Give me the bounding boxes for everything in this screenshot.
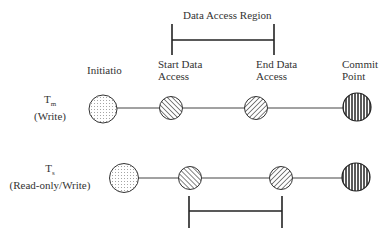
initiation-node-ts <box>110 164 139 193</box>
end-access-label: End Data Access <box>256 58 297 82</box>
start-access-node-ts <box>179 167 202 190</box>
timeline-ts <box>110 163 371 193</box>
commit-point-label: Commit Point <box>342 58 378 82</box>
end-access-node-ts <box>270 167 293 190</box>
start-access-label: Start Data Access <box>158 58 202 82</box>
commit-node-tm <box>343 93 371 121</box>
data-access-region-bracket-top <box>172 24 274 55</box>
commit-node-ts <box>342 163 370 191</box>
initiation-label: Initiatio <box>87 64 122 76</box>
end-access-node-tm <box>245 97 268 120</box>
row-label-tm: Tm (Write) <box>30 93 70 122</box>
timeline-tm <box>89 93 371 123</box>
start-access-node-tm <box>160 97 183 120</box>
row-label-ts: Ts (Read-only/Write) <box>5 162 95 191</box>
data-access-region-bracket-bottom <box>189 196 282 228</box>
data-access-region-label: Data Access Region <box>183 9 272 21</box>
initiation-node-tm <box>89 95 117 123</box>
